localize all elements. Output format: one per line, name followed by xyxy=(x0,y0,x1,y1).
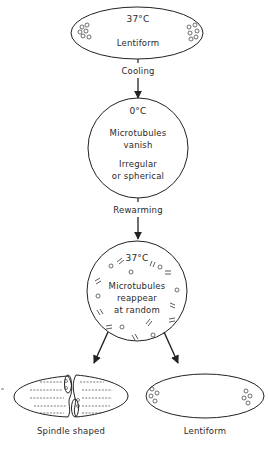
granules-right xyxy=(187,23,199,41)
cooling-label: Cooling xyxy=(121,66,154,76)
arrow-to-lentiform xyxy=(164,332,178,363)
cold-shape-line1: Irregular xyxy=(119,159,157,169)
cold-shape-line2: or spherical xyxy=(112,171,164,181)
cold-desc-line1: Microtubules xyxy=(110,128,167,138)
top-temperature: 37°C xyxy=(126,14,149,24)
bottom-granules-left xyxy=(149,387,159,403)
arrow-to-spindle xyxy=(94,332,108,363)
warm-temperature: 37°C xyxy=(125,253,148,263)
warm-desc-line1: Microtubules xyxy=(109,281,166,291)
spindle-shaped-cell xyxy=(14,375,128,417)
spindle-shaped-label: Spindle shaped xyxy=(37,426,105,436)
warm-desc-line2: reappear xyxy=(117,293,157,303)
warm-desc-line3: at random xyxy=(114,305,160,315)
rewarming-label: Rewarming xyxy=(113,205,162,215)
bottom-granules-right xyxy=(242,389,252,405)
bottom-lentiform-cell xyxy=(146,374,264,418)
cold-temperature: 0°C xyxy=(129,106,146,116)
top-shape-label: Lentiform xyxy=(117,38,160,48)
bottom-lentiform-label: Lentiform xyxy=(184,426,227,436)
granules-left xyxy=(78,23,91,39)
cold-desc-line2: vanish xyxy=(123,140,152,150)
